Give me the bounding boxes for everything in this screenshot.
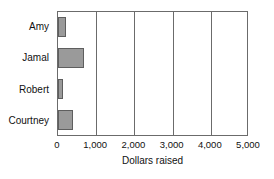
bar-row-jamal <box>58 48 247 68</box>
x-tick-label-1000: 1,000 <box>83 139 107 150</box>
bar-row-courtney <box>58 110 247 130</box>
x-tick-label-3000: 3,000 <box>160 139 184 150</box>
bar-series <box>58 12 247 135</box>
bar-row-amy <box>58 17 247 37</box>
x-axis-tick-labels: 01,0002,0003,0004,0005,000 <box>57 139 248 151</box>
bar-chart: Amy Jamal Robert Courtney 01,0002,0003,0… <box>0 0 274 179</box>
bar-row-robert <box>58 79 247 99</box>
category-label-jamal: Jamal <box>22 52 52 63</box>
category-label-robert: Robert <box>19 84 52 95</box>
bar-robert <box>58 79 63 99</box>
x-tick-label-5000: 5,000 <box>236 139 260 150</box>
bar-courtney <box>58 110 73 130</box>
bar-amy <box>58 17 66 37</box>
category-label-amy: Amy <box>29 21 52 32</box>
category-label-courtney: Courtney <box>8 115 52 126</box>
plot-area <box>57 11 248 136</box>
bar-jamal <box>58 48 84 68</box>
x-axis-title: Dollars raised <box>57 155 248 167</box>
x-tick-label-4000: 4,000 <box>198 139 222 150</box>
x-tick-label-2000: 2,000 <box>122 139 146 150</box>
category-axis-labels: Amy Jamal Robert Courtney <box>0 11 52 136</box>
x-tick-label-0: 0 <box>54 139 59 150</box>
